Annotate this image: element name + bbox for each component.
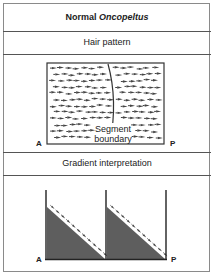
segment-label-line2: boundary <box>94 134 132 144</box>
gradient-triangle-1 <box>47 207 105 259</box>
segment-label-line1: Segment <box>95 124 132 134</box>
figure-drawings: Segment boundary A P A P <box>0 0 216 275</box>
gradient-triangle-2 <box>107 207 165 259</box>
gradient-anterior-label: A <box>36 255 42 264</box>
posterior-label: P <box>170 139 176 148</box>
gradient-posterior-label: P <box>171 255 177 264</box>
anterior-label: A <box>36 139 42 148</box>
hair-field-diagram: Segment boundary A P <box>36 63 176 148</box>
gradient-diagram: A P <box>36 190 177 264</box>
